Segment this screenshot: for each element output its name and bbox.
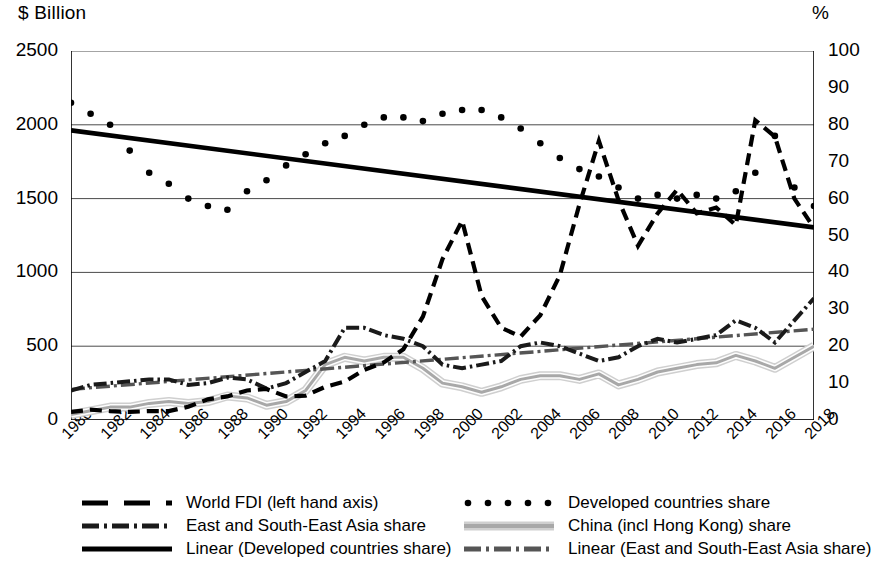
right-tick-70: 70 <box>828 150 849 172</box>
data-point-developed-2010 <box>654 192 661 199</box>
right-tick-20: 20 <box>828 334 849 356</box>
right-tick-90: 90 <box>828 76 849 98</box>
data-point-developed-2012 <box>693 192 700 199</box>
data-point-developed-1980 <box>71 99 74 106</box>
data-point-developed-1999 <box>439 110 446 117</box>
data-point-developed-1986 <box>185 195 192 202</box>
left-tick-500: 500 <box>0 334 58 356</box>
data-point-developed-2017 <box>791 184 798 191</box>
data-point-developed-2002 <box>498 114 505 121</box>
data-point-developed-1996 <box>381 114 388 121</box>
legend-item[interactable]: World FDI (left hand axis) <box>78 492 378 514</box>
left-tick-0: 0 <box>0 408 58 430</box>
right-tick-30: 30 <box>828 297 849 319</box>
series-east-asia-share <box>71 298 814 390</box>
legend-item[interactable]: East and South-East Asia share <box>78 515 426 537</box>
legend-label: China (incl Hong Kong) share <box>558 516 791 536</box>
data-point-developed-2001 <box>478 107 485 114</box>
legend-label: Linear (Developed countries share) <box>176 539 452 559</box>
legend-swatch <box>460 538 558 560</box>
data-point-developed-1987 <box>205 203 212 210</box>
plot-area <box>71 51 814 420</box>
left-tick-1500: 1500 <box>0 187 58 209</box>
data-point-developed-2008 <box>615 184 622 191</box>
chart-legend: World FDI (left hand axis)East and South… <box>0 492 860 564</box>
data-point-developed-2016 <box>772 133 779 140</box>
legend-label: East and South-East Asia share <box>176 516 426 536</box>
left-tick-1000: 1000 <box>0 260 58 282</box>
data-point-developed-2014 <box>733 188 740 195</box>
right-tick-10: 10 <box>828 371 849 393</box>
data-point-developed-1985 <box>166 181 173 188</box>
data-point-developed-2004 <box>537 140 544 147</box>
legend-key-solid-grey <box>460 515 558 537</box>
right-tick-60: 60 <box>828 187 849 209</box>
data-point-developed-2005 <box>557 155 564 162</box>
right-tick-40: 40 <box>828 260 849 282</box>
legend-swatch <box>78 492 176 514</box>
data-point-developed-1998 <box>420 118 427 125</box>
data-point-developed-1982 <box>107 122 114 129</box>
legend-item[interactable]: Linear (East and South-East Asia share) <box>460 538 871 560</box>
legend-item[interactable]: Linear (Developed countries share) <box>78 538 452 560</box>
chart-canvas <box>71 51 814 420</box>
data-point-developed-2013 <box>713 195 720 202</box>
left-tick-2000: 2000 <box>0 113 58 135</box>
data-point-developed-2003 <box>517 125 524 132</box>
right-tick-50: 50 <box>828 224 849 246</box>
legend-swatch <box>78 515 176 537</box>
legend-swatch <box>78 538 176 560</box>
data-point-developed-2007 <box>596 173 603 180</box>
data-point-developed-2015 <box>752 170 759 177</box>
data-point-developed-1984 <box>146 170 153 177</box>
legend-label: World FDI (left hand axis) <box>176 493 378 513</box>
left-tick-2500: 2500 <box>0 39 58 61</box>
series-developed-countries-share <box>71 99 814 213</box>
data-point-developed-2018 <box>811 203 814 210</box>
legend-item[interactable]: Developed countries share <box>460 492 770 514</box>
legend-item[interactable]: China (incl Hong Kong) share <box>460 515 791 537</box>
data-point-developed-1992 <box>302 151 309 158</box>
trendline-developed-countries-share <box>71 130 814 227</box>
legend-key-dotted-black <box>460 492 558 514</box>
data-point-developed-1988 <box>224 206 231 213</box>
data-point-developed-1983 <box>126 147 133 154</box>
data-point-developed-1994 <box>341 133 348 140</box>
data-point-developed-1981 <box>87 110 94 117</box>
legend-key-dashdot-black <box>78 515 176 537</box>
right-tick-100: 100 <box>828 39 860 61</box>
data-point-developed-1997 <box>400 114 407 121</box>
left-axis-unit-label: $ Billion <box>18 2 86 24</box>
legend-label: Developed countries share <box>558 493 770 513</box>
legend-swatch <box>460 492 558 514</box>
data-point-developed-2000 <box>459 107 466 114</box>
legend-key-solid-black <box>78 538 176 560</box>
data-point-developed-1993 <box>322 140 329 147</box>
right-axis-unit-label: % <box>812 2 829 24</box>
legend-key-dashdot-grey <box>460 538 558 560</box>
data-point-developed-1989 <box>244 188 251 195</box>
data-point-developed-2009 <box>635 195 642 202</box>
legend-key-dashed-black <box>78 492 176 514</box>
right-tick-80: 80 <box>828 113 849 135</box>
data-point-developed-1990 <box>263 177 270 184</box>
data-point-developed-2011 <box>674 195 681 202</box>
legend-label: Linear (East and South-East Asia share) <box>558 539 871 559</box>
data-point-developed-1991 <box>283 162 290 169</box>
legend-swatch <box>460 515 558 537</box>
data-point-developed-2006 <box>576 166 583 173</box>
data-point-developed-1995 <box>361 122 368 129</box>
